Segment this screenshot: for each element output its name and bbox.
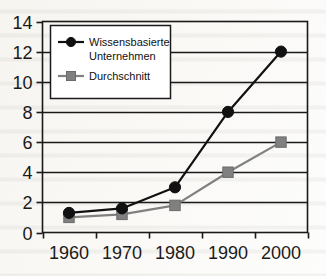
x-tick-label: 1990 [208,243,248,263]
x-axis-ticks [44,233,309,239]
legend-label-primary-line1: Wissensbasierte [89,36,170,48]
y-tick-label: 4 [22,163,32,183]
data-point-square-marker [170,200,180,210]
legend: Wissensbasierte Unternehmen Durchschnitt [51,26,171,99]
x-tick-label: 1960 [49,243,89,263]
x-tick-label: 1970 [102,243,142,263]
chart-figure: 02468101214 19601970198019902000 Wissens… [0,0,326,276]
x-tick-label: 1980 [155,243,195,263]
x-tick-label: 2000 [261,243,301,263]
y-tick-label: 0 [22,224,32,244]
y-tick-label: 2 [22,193,32,213]
data-point-square-marker [276,137,286,147]
legend-label-secondary-line1: Durchschnitt [89,70,150,82]
legend-marker-square-icon [67,72,76,81]
y-tick-label: 8 [22,103,32,123]
legend-marker-circle-icon [66,37,75,46]
data-point-circle-marker [222,106,233,117]
y-tick-label: 10 [12,73,32,93]
y-axis-tick-labels: 02468101214 [12,13,32,244]
y-tick-label: 12 [12,43,32,63]
data-point-circle-marker [63,207,74,218]
line-chart-plot: 02468101214 19601970198019902000 Wissens… [0,0,326,276]
data-point-circle-marker [116,203,127,214]
data-point-square-marker [223,167,233,177]
legend-entry-durchschnitt: Durchschnitt [58,70,150,82]
y-tick-label: 14 [12,13,32,33]
data-point-circle-marker [275,46,286,57]
x-axis-tick-labels: 19601970198019902000 [49,243,301,263]
legend-label-primary-line2: Unternehmen [89,50,156,62]
y-tick-label: 6 [22,133,32,153]
data-point-circle-marker [169,182,180,193]
y-axis-ticks [37,23,43,234]
